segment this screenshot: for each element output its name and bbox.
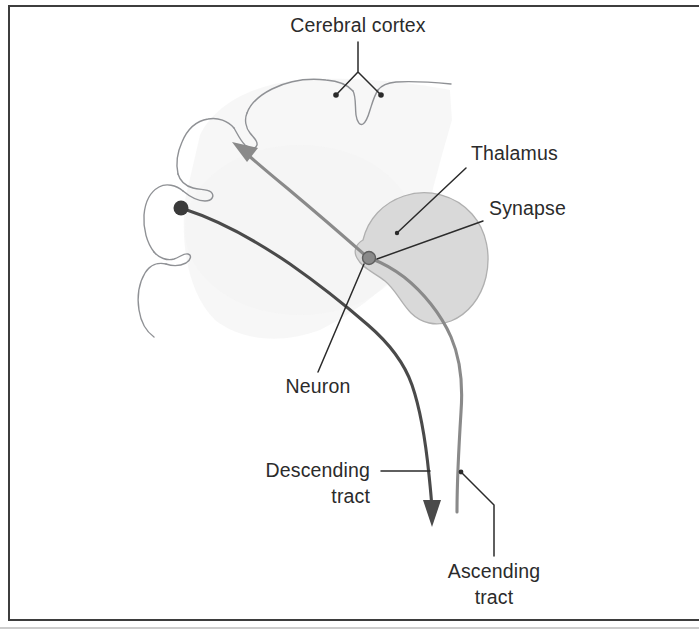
label-descending-tract-group: Descending tract <box>266 459 430 507</box>
cortex-gyrus-temporal-tip <box>138 263 166 337</box>
descending-tract-label-line2: tract <box>331 485 370 507</box>
neuron-label: Neuron <box>286 375 351 397</box>
cerebral-cortex-label: Cerebral cortex <box>290 14 426 36</box>
thalamus-label: Thalamus <box>471 142 558 164</box>
ascending-tract-label-line1: Ascending <box>448 560 540 582</box>
cerebral-cortex-leader-dot-left <box>333 92 339 98</box>
descending-tract-arrowhead <box>423 500 441 527</box>
ascending-tract-leader-dot <box>459 470 464 475</box>
ascending-tract-leader-line <box>461 472 494 556</box>
synapse-label: Synapse <box>489 197 566 219</box>
label-ascending-tract-group: Ascending tract <box>448 470 540 608</box>
neuron-soma-dot <box>174 201 189 216</box>
thalamus-leader-dot <box>395 231 399 235</box>
figure-container: Cerebral cortex Thalamus Synapse Neuron … <box>0 0 699 634</box>
cortex-gyrus-lower-left <box>144 185 183 252</box>
anatomy-diagram: Cerebral cortex Thalamus Synapse Neuron … <box>0 0 699 634</box>
synapse-dot <box>363 252 376 265</box>
descending-tract-label-line1: Descending <box>266 459 370 481</box>
ascending-tract-label-line2: tract <box>475 586 514 608</box>
cerebral-cortex-leader-dot-right <box>378 92 384 98</box>
